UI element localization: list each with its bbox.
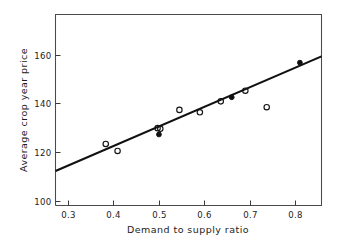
y-tick-label: 100 — [34, 197, 51, 207]
plot-frame — [56, 15, 322, 206]
y-axis-tick-labels: 100120140160 — [34, 51, 51, 207]
data-point — [264, 105, 269, 110]
regression-line — [56, 56, 322, 171]
chart-figure: 0.30.40.50.60.70.8 100120140160 Demand t… — [0, 0, 337, 242]
x-tick-label: 0.8 — [288, 210, 303, 220]
x-tick-label: 0.4 — [106, 210, 121, 220]
data-point — [177, 107, 182, 112]
x-axis-ticks — [69, 201, 296, 206]
data-point — [229, 95, 234, 100]
data-point — [115, 148, 120, 153]
y-axis-title: Average crop year price — [18, 48, 29, 172]
y-tick-label: 120 — [34, 148, 51, 158]
data-point — [197, 110, 202, 115]
open-circle-markers — [103, 88, 269, 154]
x-tick-label: 0.5 — [152, 210, 167, 220]
data-point — [157, 132, 162, 137]
data-point — [298, 60, 303, 65]
filled-circle-markers — [157, 60, 303, 137]
y-axis-ticks — [56, 56, 61, 202]
x-tick-label: 0.7 — [243, 210, 258, 220]
y-tick-label: 160 — [34, 51, 51, 61]
y-tick-label: 140 — [34, 99, 51, 109]
x-tick-label: 0.6 — [197, 210, 212, 220]
x-axis-title: Demand to supply ratio — [127, 224, 249, 235]
scatter-plot: 0.30.40.50.60.70.8 100120140160 Demand t… — [0, 0, 337, 242]
x-tick-label: 0.3 — [61, 210, 76, 220]
x-axis-tick-labels: 0.30.40.50.60.70.8 — [61, 210, 303, 220]
data-point — [103, 141, 108, 146]
